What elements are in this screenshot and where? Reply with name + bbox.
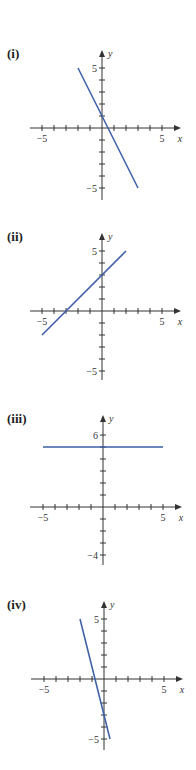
- y-axis-label: y: [109, 599, 115, 610]
- y-axis-arrow-icon: [101, 601, 107, 608]
- y-tick-label: −5: [88, 734, 99, 745]
- x-tick-label: −5: [39, 684, 50, 695]
- x-axis-arrow-icon: [176, 676, 183, 682]
- graph-iv: −555−5xy: [0, 0, 196, 770]
- x-axis-label: x: [179, 684, 185, 695]
- x-tick-label: 5: [162, 684, 167, 695]
- y-tick-label: 5: [94, 614, 99, 625]
